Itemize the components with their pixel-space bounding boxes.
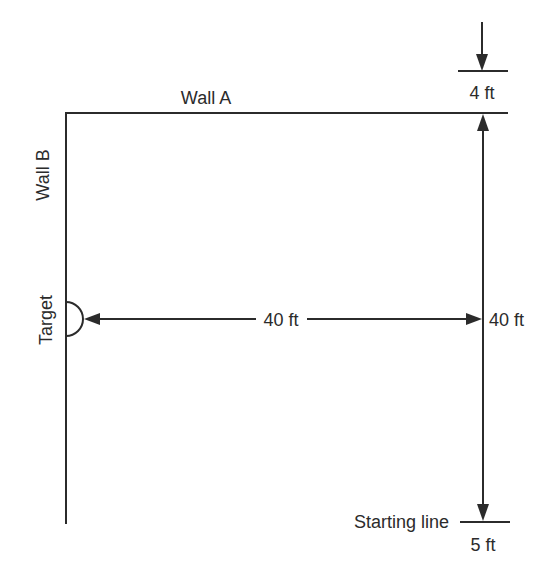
arrowhead-left-icon <box>84 313 100 325</box>
horizontal-dimension: 40 ft <box>84 310 482 330</box>
top-offset-label: 4 ft <box>469 83 494 103</box>
arrowhead-up-icon <box>477 114 489 131</box>
vertical-dimension-label: 40 ft <box>489 310 524 330</box>
court-layout-diagram: Wall A Wall B Target 40 ft 40 ft 4 ft St… <box>0 0 557 584</box>
arrowhead-right-icon <box>466 313 482 325</box>
target-semicircle-icon <box>66 302 83 336</box>
starting-line-group: Starting line 5 ft <box>354 512 510 555</box>
target-label: Target <box>36 295 56 345</box>
wall-a: Wall A <box>65 88 508 113</box>
target: Target <box>36 295 83 345</box>
arrowhead-down-top-icon <box>476 54 488 71</box>
starting-line-label: Starting line <box>354 512 449 532</box>
arrowhead-down-icon <box>477 504 489 521</box>
top-offset-dimension: 4 ft <box>458 22 508 103</box>
wall-a-label: Wall A <box>181 88 231 108</box>
wall-b-label: Wall B <box>33 149 53 200</box>
bottom-offset-label: 5 ft <box>470 535 495 555</box>
vertical-dimension: 40 ft <box>477 114 524 521</box>
horizontal-dimension-label: 40 ft <box>263 310 298 330</box>
